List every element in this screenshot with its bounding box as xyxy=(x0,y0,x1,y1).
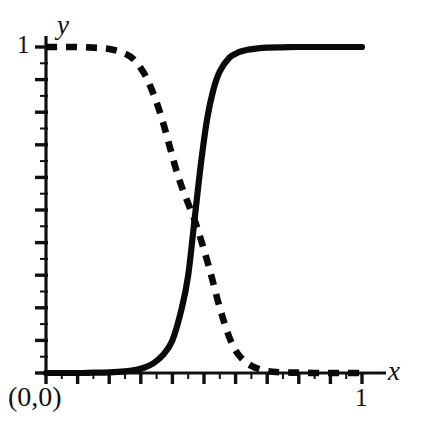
origin-label: (0,0) xyxy=(8,383,62,411)
sigmoid-curves-figure: y x 1 1 (0,0) xyxy=(0,0,424,423)
x-axis-label: x xyxy=(388,358,400,385)
x-axis-tick-label-1: 1 xyxy=(355,385,368,410)
y-axis-label: y xyxy=(57,12,69,39)
plot-canvas xyxy=(0,0,424,423)
decreasing-sigmoid-curve xyxy=(46,47,362,373)
increasing-sigmoid-curve xyxy=(46,47,362,373)
y-axis-ticks xyxy=(35,47,48,373)
y-axis-tick-label-1: 1 xyxy=(17,32,30,57)
